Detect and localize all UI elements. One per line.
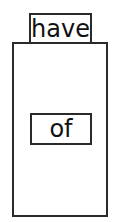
top-word-box: have xyxy=(29,13,92,44)
inner-word-label: of xyxy=(49,117,72,141)
inner-word-box: of xyxy=(30,113,92,145)
top-word-label: have xyxy=(31,17,90,41)
